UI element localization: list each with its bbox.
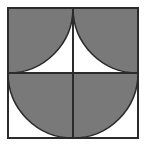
geometry-canvas [0, 0, 147, 150]
geometry-figure [0, 0, 147, 150]
